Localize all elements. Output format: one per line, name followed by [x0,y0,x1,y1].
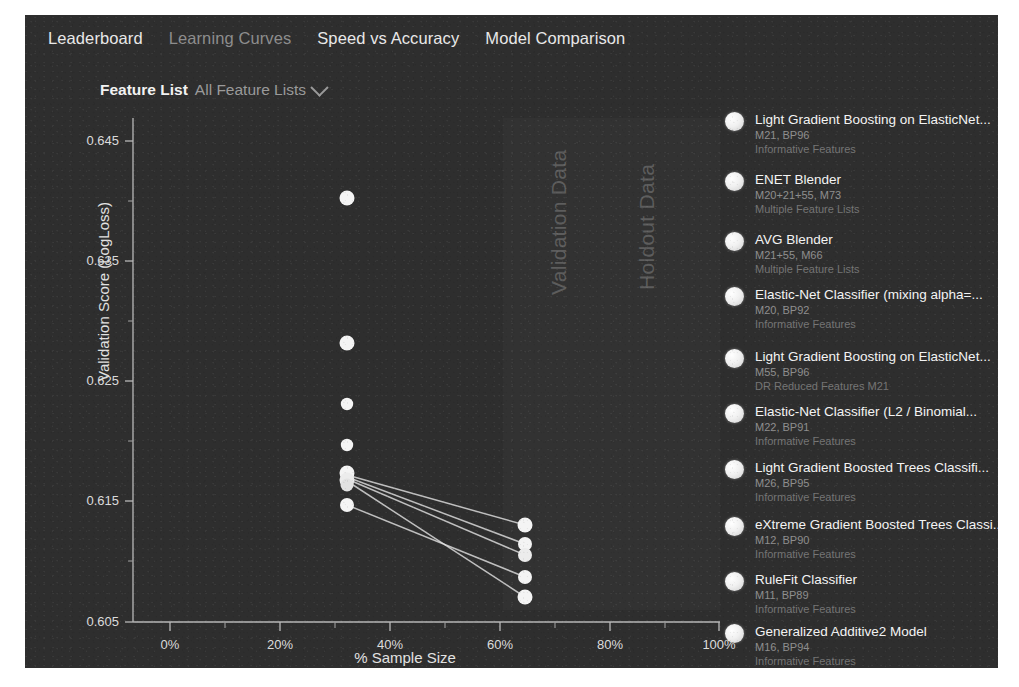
legend-model-ids: M22, BP91 [755,420,977,434]
legend-model-featurelist: Informative Features [755,602,857,616]
legend-item[interactable]: ENET Blender M20+21+55, M73 Multiple Fea… [725,170,998,216]
legend-model-title: ENET Blender [755,172,841,187]
series-lines [347,475,525,597]
legend-model-title: Elastic-Net Classifier (mixing alpha=... [755,287,983,302]
legend-model-title: Light Gradient Boosting on ElasticNet... [755,112,991,127]
y-axis-title: Validation Score (LogLoss) [95,172,112,412]
legend-item[interactable]: AVG Blender M21+55, M66 Multiple Feature… [725,230,998,276]
legend-color-dot-icon[interactable] [725,517,744,536]
tab-bar: Leaderboard Learning Curves Speed vs Acc… [35,21,638,55]
data-point[interactable] [341,479,354,492]
legend-model-title: Elastic-Net Classifier (L2 / Binomial... [755,404,977,419]
legend-item[interactable]: Elastic-Net Classifier (mixing alpha=...… [725,285,998,331]
data-point[interactable] [341,439,353,451]
x-axis-minor-ticks [225,622,665,628]
legend-model-featurelist: Multiple Feature Lists [755,202,860,216]
legend-model-ids: M20+21+55, M73 [755,188,860,202]
legend-color-dot-icon[interactable] [725,232,744,251]
legend-item[interactable]: RuleFit Classifier M11, BP89 Informative… [725,570,998,616]
tab-learning-curves[interactable]: Learning Curves [156,27,305,50]
legend-model-title: Light Gradient Boosting on ElasticNet... [755,349,991,364]
legend-model-featurelist: Informative Features [755,547,998,561]
legend-item[interactable]: Generalized Additive2 Model M16, BP94 In… [725,622,998,668]
series-line-m20 [347,477,525,544]
learning-curves-panel: Leaderboard Learning Curves Speed vs Acc… [25,15,998,668]
region-band-holdout [610,118,720,610]
legend-model-title: AVG Blender [755,232,833,247]
page-root: Leaderboard Learning Curves Speed vs Acc… [0,0,1019,687]
legend-model-ids: M26, BP95 [755,476,989,490]
legend-model-featurelist: Multiple Feature Lists [755,262,860,276]
legend-model-ids: M21+55, M66 [755,248,860,262]
legend-model-title: Generalized Additive2 Model [755,624,927,639]
legend-item[interactable]: Light Gradient Boosting on ElasticNet...… [725,347,998,393]
legend-model-title: eXtreme Gradient Boosted Trees Classi.. [755,517,998,532]
legend-model-featurelist: Informative Features [755,490,989,504]
legend-model-ids: M12, BP90 [755,533,998,547]
legend-color-dot-icon[interactable] [725,624,744,643]
y-tick-label: 0.615 [65,493,119,508]
legend-model-ids: M55, BP96 [755,365,991,379]
region-label-holdout: Holdout Data [635,164,659,290]
legend-color-dot-icon[interactable] [725,404,744,423]
legend-model-ids: M20, BP92 [755,303,983,317]
legend-model-featurelist: Informative Features [755,654,927,668]
legend-color-dot-icon[interactable] [725,172,744,191]
legend-model-ids: M21, BP96 [755,128,991,142]
feature-list-filter: Feature List All Feature Lists [100,81,326,99]
legend-model-featurelist: Informative Features [755,142,991,156]
legend-color-dot-icon[interactable] [725,112,744,131]
legend-model-ids: M11, BP89 [755,588,857,602]
model-legend: Light Gradient Boosting on ElasticNet...… [725,110,998,655]
chevron-down-icon[interactable] [310,78,328,96]
legend-model-featurelist: Informative Features [755,434,977,448]
data-point[interactable] [340,191,355,206]
tab-model-comparison[interactable]: Model Comparison [472,27,638,50]
feature-list-value[interactable]: All Feature Lists [195,81,306,99]
tab-leaderboard[interactable]: Leaderboard [35,27,156,50]
legend-model-featurelist: Informative Features [755,317,983,331]
y-tick-label: 0.605 [65,614,119,629]
legend-color-dot-icon[interactable] [725,287,744,306]
legend-color-dot-icon[interactable] [725,349,744,368]
x-axis-title: % Sample Size [185,649,625,666]
data-points-left[interactable] [340,191,355,513]
y-axis-major-ticks [125,141,133,622]
series-line-m22 [347,505,525,577]
legend-model-title: RuleFit Classifier [755,572,857,587]
y-tick-label: 0.645 [65,133,119,148]
legend-item[interactable]: Elastic-Net Classifier (L2 / Binomial...… [725,402,998,448]
data-point[interactable] [341,398,353,410]
legend-model-ids: M16, BP94 [755,640,927,654]
legend-color-dot-icon[interactable] [725,460,744,479]
tab-speed-vs-accuracy[interactable]: Speed vs Accuracy [304,27,472,50]
legend-item[interactable]: Light Gradient Boosted Trees Classifi...… [725,458,998,504]
series-line-m26 [347,481,525,597]
data-point[interactable] [340,336,355,351]
legend-model-title: Light Gradient Boosted Trees Classifi... [755,460,989,475]
legend-item[interactable]: eXtreme Gradient Boosted Trees Classi.. … [725,515,998,561]
legend-model-featurelist: DR Reduced Features M21 [755,379,991,393]
legend-color-dot-icon[interactable] [725,572,744,591]
feature-list-label: Feature List [100,81,188,99]
legend-item[interactable]: Light Gradient Boosting on ElasticNet...… [725,110,998,156]
learning-curves-chart: Validation Data Holdout Data [25,15,725,668]
region-label-validation: Validation Data [547,150,571,295]
data-point[interactable] [340,498,354,512]
